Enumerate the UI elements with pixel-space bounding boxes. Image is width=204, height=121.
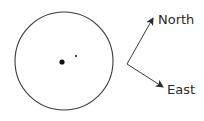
large-dot: [59, 59, 64, 64]
east-arrow: [127, 64, 163, 87]
direction-diagram: North East: [0, 0, 204, 121]
small-dot: [75, 55, 77, 57]
north-arrow: [127, 18, 153, 64]
east-label: East: [167, 82, 195, 97]
north-label: North: [158, 12, 194, 27]
